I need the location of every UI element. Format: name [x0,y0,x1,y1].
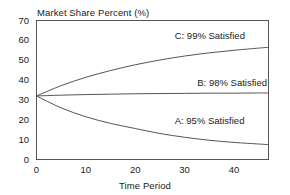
y-tick-20: 20 [3,114,29,125]
y-tick-50: 50 [3,54,29,65]
y-axis-title: Market Share Percent (%) [37,7,149,18]
market-share-chart: Market Share Percent (%) Time Period 010… [0,0,290,195]
x-tick-40: 40 [219,164,249,175]
x-tick-30: 30 [170,164,200,175]
y-tick-0: 0 [3,154,29,165]
series-annotation-2: B: 98% Satisfied [197,77,267,88]
y-tick-70: 70 [3,15,29,26]
x-tick-10: 10 [71,164,101,175]
series-annotation-1: C: 99% Satisfied [175,30,245,41]
x-axis-title: Time Period [0,180,290,191]
series-line-c [37,47,269,96]
y-tick-30: 30 [3,94,29,105]
series-annotation-3: A: 95% Satisfied [175,115,245,126]
x-tick-0: 0 [22,164,52,175]
y-tick-40: 40 [3,74,29,85]
series-line-b [37,93,269,96]
y-tick-10: 10 [3,134,29,145]
x-tick-20: 20 [120,164,150,175]
y-tick-60: 60 [3,34,29,45]
